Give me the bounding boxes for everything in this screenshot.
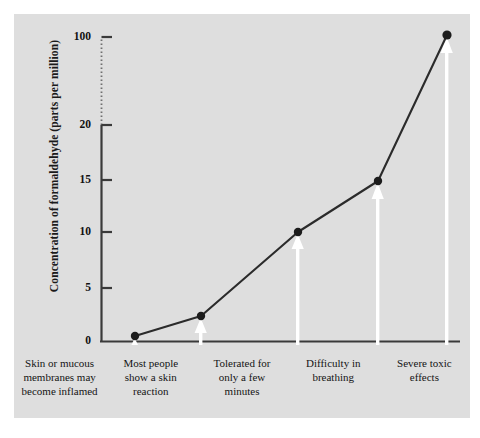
category-label-4-line2: effects [381, 370, 468, 384]
data-point-4 [442, 30, 451, 39]
category-label-2: Tolerated for only a few minutes [196, 356, 287, 408]
category-label-0-line2: membranes may [16, 370, 103, 384]
y-tick-label-100: 100 [51, 31, 91, 43]
category-label-1: Most people show a skin reaction [105, 356, 196, 408]
category-label-0-line1: Skin or mucous [16, 356, 103, 370]
y-tick-label-15: 15 [51, 174, 91, 186]
category-label-0-line3: become inflamed [16, 384, 103, 398]
category-label-0: Skin or mucous membranes may become infl… [14, 356, 105, 408]
category-label-4: Severe toxic effects [379, 356, 470, 408]
y-tick-label-0: 0 [51, 335, 91, 347]
annotation-arrow-3 [292, 234, 304, 345]
category-label-4-line1: Severe toxic [381, 356, 468, 370]
category-label-1-line2: show a skin [107, 370, 194, 384]
category-label-3-line1: Difficulty in [290, 356, 377, 370]
data-point-3 [374, 177, 382, 185]
category-label-1-line3: reaction [107, 384, 194, 398]
annotation-arrow-4 [372, 183, 384, 345]
data-point-0 [131, 332, 139, 340]
data-point-2 [294, 228, 302, 236]
category-label-2-line1: Tolerated for [198, 356, 285, 370]
x-axis-category-labels: Skin or mucous membranes may become infl… [14, 356, 470, 408]
category-label-2-line2: only a few [198, 370, 285, 384]
plot-area [100, 20, 460, 345]
data-point-markers [131, 30, 452, 340]
formaldehyde-concentration-chart: Concentration of formaldehyde (parts per… [0, 0, 480, 438]
y-tick-label-20: 20 [51, 119, 91, 131]
annotation-arrow-5 [441, 37, 453, 345]
data-line [135, 35, 447, 336]
category-label-3: Difficulty in breathing [288, 356, 379, 408]
category-label-2-line3: minutes [198, 384, 285, 398]
category-label-1-line1: Most people [107, 356, 194, 370]
data-point-1 [197, 312, 205, 320]
category-label-3-line2: breathing [290, 370, 377, 384]
y-tick-label-5: 5 [51, 282, 91, 294]
annotation-arrows [129, 37, 453, 345]
y-tick-label-10: 10 [51, 226, 91, 238]
